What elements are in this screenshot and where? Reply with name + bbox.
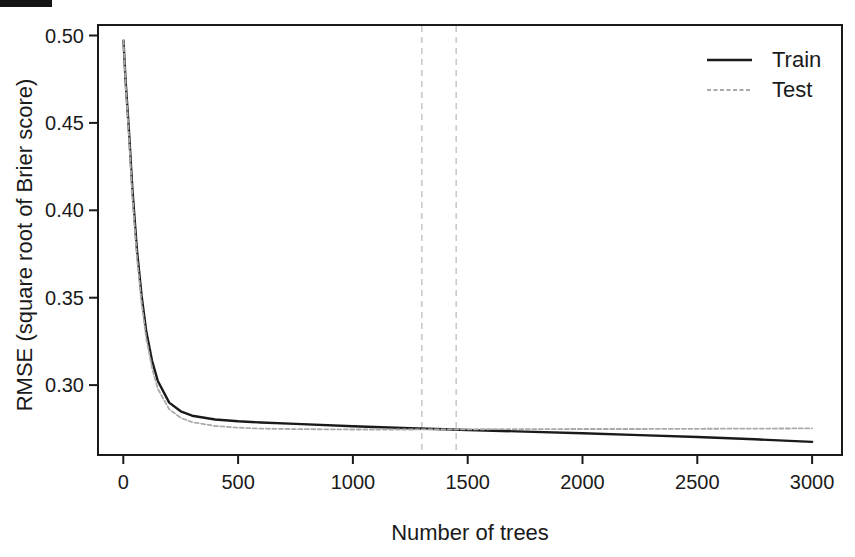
x-tick-label: 3000: [790, 471, 835, 493]
x-tick-label: 1000: [331, 471, 376, 493]
legend-test-label: Test: [772, 77, 812, 102]
y-axis-title: RMSE (square root of Brier score): [12, 79, 37, 412]
y-tick-label: 0.50: [45, 25, 84, 47]
x-tick-label: 500: [221, 471, 254, 493]
y-tick-label: 0.35: [45, 287, 84, 309]
x-tick-label: 1500: [445, 471, 490, 493]
legend: Train Test: [707, 47, 821, 102]
chart-figure: 0500100015002000250030000.300.350.400.45…: [0, 0, 855, 557]
x-tick-label: 0: [118, 471, 129, 493]
chart-svg: 0500100015002000250030000.300.350.400.45…: [0, 0, 855, 557]
x-tick-label: 2000: [560, 471, 605, 493]
series-line-test: [124, 41, 813, 430]
axis-ticks-group: 0500100015002000250030000.300.350.400.45…: [45, 25, 834, 494]
series-group: [124, 41, 813, 442]
legend-train-label: Train: [772, 47, 821, 72]
series-line-train: [124, 41, 813, 442]
reference-vlines-group: [422, 26, 456, 454]
x-axis-title: Number of trees: [391, 520, 549, 545]
x-tick-label: 2500: [675, 471, 720, 493]
y-tick-label: 0.40: [45, 199, 84, 221]
y-tick-label: 0.45: [45, 112, 84, 134]
y-tick-label: 0.30: [45, 374, 84, 396]
